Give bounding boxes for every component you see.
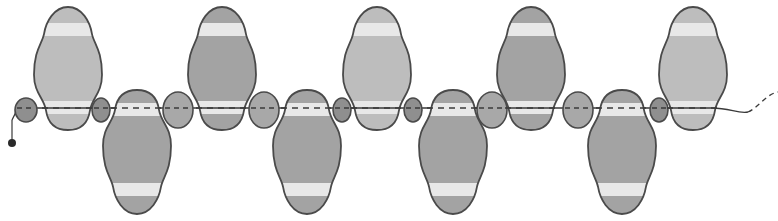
seed-bead xyxy=(333,98,351,122)
seed-bead xyxy=(249,92,279,128)
bead-pattern-svg xyxy=(0,0,778,221)
seed-bead xyxy=(563,92,593,128)
thread-end-knot xyxy=(8,139,16,147)
seed-bead xyxy=(477,92,507,128)
seed-bead xyxy=(92,98,110,122)
seed-bead xyxy=(163,92,193,128)
seed-bead xyxy=(404,98,422,122)
seed-bead xyxy=(650,98,668,122)
beading-diagram xyxy=(0,0,778,221)
seed-bead xyxy=(15,98,37,122)
front-beads xyxy=(15,90,719,214)
